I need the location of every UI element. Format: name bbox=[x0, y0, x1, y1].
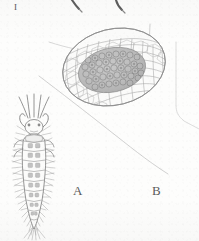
mandible-right bbox=[43, 114, 48, 127]
figure-plate: I A B bbox=[0, 0, 199, 241]
antenna-right-inner bbox=[38, 95, 41, 118]
panel-a-larva bbox=[0, 0, 199, 241]
larva-head bbox=[25, 120, 43, 135]
larva-eye-left bbox=[28, 124, 31, 127]
larva-eye-right bbox=[38, 124, 41, 127]
mandible-left bbox=[20, 114, 25, 127]
panel-label-b: B bbox=[152, 184, 161, 197]
larva-body bbox=[22, 134, 46, 229]
plate-label: I bbox=[14, 3, 18, 12]
panel-label-a: A bbox=[73, 184, 82, 197]
antenna-left-inner bbox=[27, 95, 30, 118]
larva-pronotum bbox=[26, 135, 43, 143]
